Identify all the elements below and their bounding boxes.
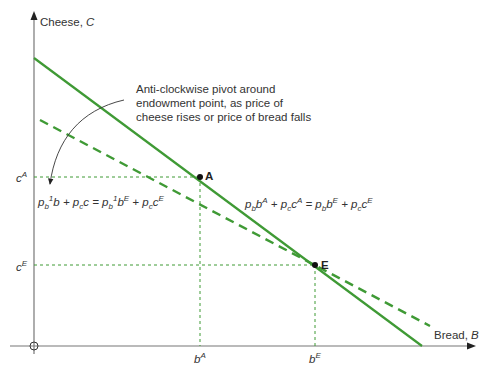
y-axis-label: Cheese, C bbox=[40, 17, 94, 29]
point-E-marker bbox=[312, 262, 318, 268]
pivot-arrow bbox=[50, 100, 124, 184]
x-axis-arrow-icon bbox=[467, 343, 476, 350]
point-A-label: A bbox=[205, 170, 213, 182]
tick-bA: bA bbox=[194, 352, 206, 365]
x-axis-label: Bread, B bbox=[434, 330, 479, 342]
y-axis-arrow-icon bbox=[31, 11, 38, 20]
tick-bE: bE bbox=[309, 352, 321, 365]
tick-cA: cA bbox=[16, 171, 27, 184]
new-budget-equation: pb1b + pcc = pb1bE + pccE bbox=[38, 195, 164, 211]
x-axis-label-text: Bread, bbox=[434, 329, 471, 341]
original-budget-equation: pbbA + pccA = pbbE + pccE bbox=[245, 197, 373, 213]
y-axis-variable: C bbox=[86, 16, 94, 28]
budget-constraint-diagram: Cheese, C Bread, B cA cE bA bE A E Anti-… bbox=[0, 0, 491, 381]
point-A-marker bbox=[197, 174, 203, 180]
annotation-line-1: Anti-clockwise pivot around bbox=[136, 82, 311, 96]
new-budget-line bbox=[40, 120, 430, 326]
annotation-line-3: cheese rises or price of bread falls bbox=[136, 110, 311, 124]
pivot-annotation: Anti-clockwise pivot around endowment po… bbox=[136, 82, 311, 124]
x-axis-variable: B bbox=[471, 329, 479, 341]
tick-cE: cE bbox=[16, 260, 27, 273]
point-E-label: E bbox=[321, 259, 329, 271]
annotation-line-2: endowment point, as price of bbox=[136, 96, 311, 110]
y-axis-label-text: Cheese, bbox=[40, 16, 86, 28]
diagram-canvas bbox=[0, 0, 491, 381]
